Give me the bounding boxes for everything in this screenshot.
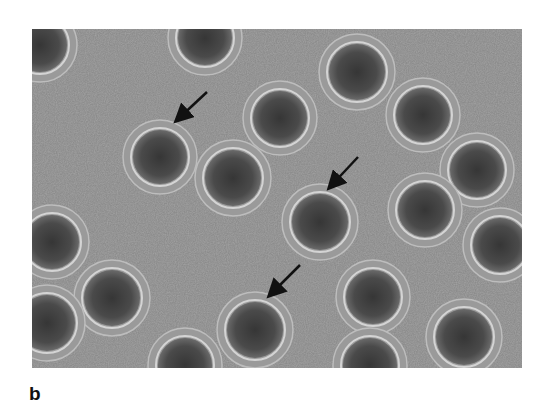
- cell: [426, 299, 502, 368]
- cell: [388, 173, 462, 247]
- cell: [217, 292, 293, 368]
- micrograph-image: [32, 29, 522, 368]
- cell: [195, 140, 271, 216]
- cell: [243, 81, 317, 155]
- cell: [386, 78, 460, 152]
- cell: [282, 184, 358, 260]
- panel-label: b: [29, 383, 41, 405]
- cell: [123, 120, 197, 194]
- cell: [336, 260, 410, 334]
- cell: [319, 34, 395, 110]
- cell-field: [32, 29, 522, 368]
